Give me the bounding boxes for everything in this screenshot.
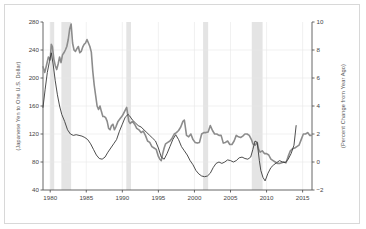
x-tick-label: 1995: [152, 194, 166, 201]
data-series: [43, 24, 311, 181]
y-tick-label: 120: [29, 130, 40, 137]
y2-tick-label: −2: [317, 186, 325, 193]
y-tick-label: 200: [29, 74, 40, 81]
x-tick-label: 1990: [115, 194, 129, 201]
y2-tick-label: 6: [317, 74, 321, 81]
x-tick-label: 2010: [260, 194, 274, 201]
y2-tick-label: 0: [317, 158, 321, 165]
x-axis-ticks: 19801985199019952000200520102015: [43, 190, 310, 201]
x-tick-label: 1985: [79, 194, 93, 201]
y-tick-label: 240: [29, 46, 40, 53]
y2-tick-label: 4: [317, 102, 321, 109]
y2-tick-label: 10: [317, 18, 324, 25]
y-axis-left-title: (Japanese Yen to One U.S. Dollar): [15, 61, 21, 150]
chart-canvas: 4080120160200240280 −20246810 1980198519…: [0, 0, 366, 229]
y2-tick-label: 2: [317, 130, 321, 137]
x-tick-label: 2015: [296, 194, 310, 201]
y-axis-right-title: (Percent Change from Year Ago): [340, 64, 346, 148]
y-tick-label: 40: [32, 186, 39, 193]
y2-tick-label: 8: [317, 46, 321, 53]
y-axis-left-ticks: 4080120160200240280: [29, 18, 43, 193]
y-tick-label: 280: [29, 18, 40, 25]
y-tick-label: 160: [29, 102, 40, 109]
x-tick-label: 2000: [188, 194, 202, 201]
series-line: [43, 24, 311, 163]
y-axis-right-ticks: −20246810: [312, 18, 324, 193]
x-tick-label: 1980: [43, 194, 57, 201]
x-tick-label: 2005: [224, 194, 238, 201]
y-tick-label: 80: [32, 158, 39, 165]
